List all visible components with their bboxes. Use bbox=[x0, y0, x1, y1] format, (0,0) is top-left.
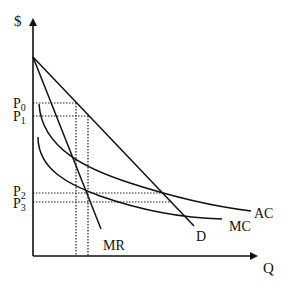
ac-label: AC bbox=[254, 206, 273, 221]
curves bbox=[33, 57, 251, 229]
guide-lines bbox=[33, 103, 172, 256]
average-cost-curve bbox=[39, 104, 251, 211]
d-label: D bbox=[196, 229, 206, 244]
axes bbox=[33, 20, 256, 256]
mr-label: MR bbox=[103, 238, 125, 253]
monopoly-diagram: $ Q P0 P1 P2 P3 MR D MC AC bbox=[0, 0, 285, 291]
y-axis-label: $ bbox=[14, 13, 22, 29]
x-axis-label: Q bbox=[263, 260, 274, 276]
marginal-revenue-curve bbox=[33, 57, 101, 229]
mc-label: MC bbox=[229, 219, 251, 234]
marginal-cost-curve bbox=[38, 137, 222, 219]
